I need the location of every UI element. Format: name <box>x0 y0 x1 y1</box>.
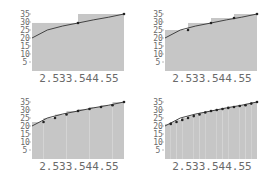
riemann-rectangle <box>234 106 240 159</box>
riemann-plot-n8: 35302520151052.533.544.55 <box>0 88 133 176</box>
riemann-rectangle <box>188 116 194 159</box>
riemann-plot-n4: 35302520151052.533.544.55 <box>133 0 266 88</box>
plot-svg: 35302520151052.533.544.55 <box>133 88 266 176</box>
riemann-rectangle <box>113 102 125 159</box>
sample-point <box>221 108 224 111</box>
riemann-rectangle <box>234 14 257 71</box>
riemann-rectangle <box>171 122 177 159</box>
plot-svg: 35302520151052.533.544.55 <box>133 0 266 88</box>
riemann-plot-n16: 35302520151052.533.544.55 <box>133 88 266 176</box>
x-tick-labels: 2.533.544.55 <box>172 160 251 173</box>
sample-point <box>42 121 45 124</box>
riemann-rectangle <box>251 102 257 159</box>
sample-point <box>233 106 236 109</box>
y-tick-label: 5 <box>23 58 28 67</box>
riemann-rectangle <box>78 109 90 159</box>
riemann-rectangle <box>211 110 217 159</box>
riemann-rectangle <box>205 111 211 159</box>
x-tick-labels: 2.533.544.55 <box>39 72 118 85</box>
riemann-rectangle <box>223 108 229 159</box>
sample-point <box>215 109 218 112</box>
riemann-rectangle <box>182 118 188 159</box>
sample-point <box>123 13 126 16</box>
riemann-rectangle <box>217 109 223 159</box>
sample-point <box>88 108 91 111</box>
sample-point <box>238 105 241 108</box>
sample-point <box>187 117 190 120</box>
y-tick-label: 5 <box>156 146 161 155</box>
y-tick-label: 5 <box>23 146 28 155</box>
sample-point <box>256 101 259 104</box>
y-tick-label: 5 <box>156 58 161 67</box>
riemann-rectangle <box>67 111 79 159</box>
riemann-rectangle <box>246 104 252 159</box>
riemann-rectangle <box>188 23 211 71</box>
sample-point <box>187 29 190 32</box>
sample-point <box>77 22 80 25</box>
riemann-rectangle <box>200 113 206 159</box>
riemann-rectangle <box>55 114 67 159</box>
sample-point <box>100 106 103 109</box>
sample-point <box>250 102 253 105</box>
riemann-rectangle <box>101 105 113 159</box>
sample-point <box>192 115 195 118</box>
riemann-rectangle <box>177 120 183 159</box>
riemann-plot-n2: 35302520151052.533.544.55 <box>0 0 133 88</box>
riemann-rectangle <box>44 118 56 159</box>
plot-svg: 35302520151052.533.544.55 <box>0 88 133 176</box>
riemann-rectangle <box>32 23 78 71</box>
sample-point <box>256 13 259 16</box>
riemann-rectangle <box>32 122 44 159</box>
sample-point <box>77 110 80 113</box>
plot-svg: 35302520151052.533.544.55 <box>0 0 133 88</box>
sample-point <box>54 117 57 120</box>
sample-point <box>181 119 184 122</box>
sample-point <box>210 110 213 113</box>
sample-point <box>227 107 230 110</box>
riemann-rectangle <box>90 107 102 159</box>
sample-point <box>65 113 68 116</box>
sample-point <box>198 113 201 116</box>
sample-point <box>204 111 207 114</box>
sample-point <box>123 101 126 104</box>
sample-point <box>233 17 236 20</box>
riemann-rectangle <box>165 124 171 159</box>
x-tick-labels: 2.533.544.55 <box>39 160 118 173</box>
sample-point <box>175 121 178 124</box>
riemann-rectangle <box>194 114 200 159</box>
riemann-rectangle <box>211 18 234 71</box>
riemann-rectangle <box>240 105 246 159</box>
x-tick-labels: 2.533.544.55 <box>172 72 251 85</box>
sample-point <box>169 123 172 126</box>
riemann-rectangle <box>78 14 124 71</box>
sample-point <box>210 22 213 25</box>
sample-point <box>111 104 114 107</box>
sample-point <box>244 104 247 107</box>
riemann-rectangle <box>228 107 234 159</box>
